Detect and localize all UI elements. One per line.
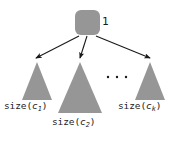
subtree-triangle-2 [135,62,165,100]
subtree-triangle-1 [58,62,102,113]
root-node-label: 1 [102,16,109,27]
edge-root-to-subtree-0 [36,36,79,58]
subtree-label-1-suffix: ) [90,116,96,127]
edge-root-to-subtree-2 [96,36,150,58]
subtree-label-2-suffix: ) [156,100,162,111]
subtree-label-1-prefix: size( [52,116,80,127]
ellipsis-dots [107,76,127,78]
subtree-label-0-prefix: size( [4,100,32,111]
subtree-label-2-prefix: size( [118,100,146,111]
edge-root-to-subtree-1 [80,36,87,58]
subtree-label-2: size(ck) [118,101,161,113]
subtree-label-0-suffix: ) [42,100,48,111]
subtree-label-1: size(c2) [52,117,95,129]
root-node-shape [75,10,100,35]
tree-diagram-figure: 1 size(c1) size(c2) size(ck) [0,0,176,141]
subtree-triangle-0 [22,62,52,100]
subtree-label-0: size(c1) [4,101,47,113]
